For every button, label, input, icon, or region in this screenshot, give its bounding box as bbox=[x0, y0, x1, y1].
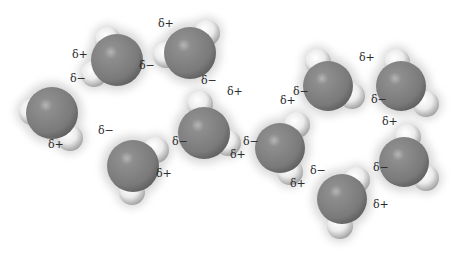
partial-positive-label: δ+ bbox=[227, 86, 243, 97]
partial-negative-label: δ− bbox=[293, 86, 309, 97]
water-molecules-diagram: δ+δ−δ−δ+δ−δ+δ+δ−δ+δ−δ+δ−δ+δ−δ+δ−δ+δ−δ+δ−… bbox=[0, 0, 461, 253]
partial-negative-label: δ− bbox=[139, 60, 155, 71]
partial-positive-label: δ+ bbox=[72, 49, 88, 60]
partial-negative-label: δ− bbox=[373, 162, 389, 173]
partial-positive-label: δ+ bbox=[290, 178, 306, 189]
partial-positive-label: δ+ bbox=[373, 199, 389, 210]
partial-negative-label: δ− bbox=[201, 75, 217, 86]
oxygen-atom bbox=[91, 34, 143, 86]
partial-positive-label: δ+ bbox=[230, 149, 246, 160]
oxygen-atom bbox=[164, 27, 216, 79]
partial-negative-label: δ− bbox=[70, 73, 86, 84]
oxygen-atom bbox=[255, 123, 305, 173]
oxygen-atom bbox=[178, 107, 230, 159]
oxygen-atom bbox=[26, 87, 78, 139]
oxygen-atom bbox=[303, 61, 353, 111]
partial-negative-label: δ− bbox=[371, 94, 387, 105]
partial-positive-label: δ+ bbox=[382, 116, 398, 127]
partial-negative-label: δ− bbox=[172, 136, 188, 147]
partial-negative-label: δ− bbox=[98, 125, 114, 136]
partial-negative-label: δ− bbox=[243, 136, 259, 147]
partial-negative-label: δ− bbox=[310, 165, 326, 176]
oxygen-atom bbox=[317, 174, 367, 224]
partial-positive-label: δ+ bbox=[158, 18, 174, 29]
partial-positive-label: δ+ bbox=[359, 52, 375, 63]
oxygen-atom bbox=[107, 140, 159, 192]
partial-positive-label: δ+ bbox=[156, 168, 172, 179]
partial-positive-label: δ+ bbox=[48, 139, 64, 150]
